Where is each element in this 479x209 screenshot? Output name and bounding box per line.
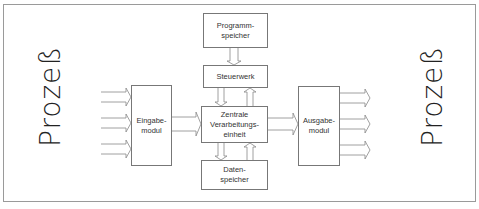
steuerwerk-box: Steuerwerk <box>203 65 268 88</box>
datenspeicher-box: Daten- speicher <box>201 160 268 190</box>
ausgabemodul-box: Ausgabe- modul <box>298 86 340 166</box>
caption-cropped <box>3 205 203 209</box>
eingabemodul-box: Eingabe- modul <box>131 85 172 166</box>
zentrale-verarbeitungseinheit-box: Zentrale Verarbeitungs- einheit <box>201 106 268 143</box>
programmspeicher-box: Programm- speicher <box>203 13 268 48</box>
